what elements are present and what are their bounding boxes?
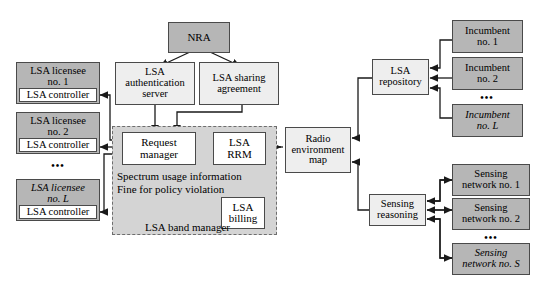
node-lsa-repository-label: LSA repository	[377, 66, 424, 87]
note-fine-policy: Fine for policy violation	[117, 183, 224, 195]
lsa-architecture-diagram: NRA LSA authentication server LSA sharin…	[0, 0, 538, 282]
node-lsa-billing-label: LSA billing	[227, 202, 260, 224]
sensing-network-1-label: Sensing network no. 1	[460, 169, 522, 190]
node-nra: NRA	[168, 22, 230, 53]
node-lsa-rrm: LSA RRM	[213, 132, 266, 165]
node-lsa-repository: LSA repository	[372, 59, 429, 95]
node-sensing-reasoning: Sensing reasoning	[369, 194, 426, 226]
note-spectrum-usage: Spectrum usage information	[117, 170, 242, 182]
licensee-2-title: LSA licensee no. 2	[17, 116, 99, 137]
node-lsa-sharing-agreement: LSA sharing agreement	[199, 62, 279, 105]
node-radio-environment-map: Radio environment map	[285, 127, 351, 173]
licensee-1-controller-label: LSA controller	[25, 90, 92, 101]
incumbent-L: Incumbent no. L	[452, 104, 523, 137]
incumbent-L-label: Incumbent no. L	[463, 110, 511, 131]
licensee-2-controller-label: LSA controller	[25, 140, 92, 151]
incumbent-1-label: Incumbent no. 1	[463, 26, 512, 47]
licensee-L-title: LSA licensee no. L	[17, 183, 99, 204]
node-radio-environment-map-label: Radio environment map	[289, 134, 346, 166]
sensing-network-2: Sensing network no. 2	[452, 198, 530, 230]
sensing-network-S: Sensing network no. S	[452, 243, 530, 275]
node-request-manager-label: Request manager	[138, 137, 180, 159]
sensing-network-1: Sensing network no. 1	[452, 164, 530, 196]
node-lsa-authentication-server: LSA authentication server	[115, 62, 195, 105]
node-nra-label: NRA	[185, 32, 212, 43]
incumbent-ellipsis: •••	[467, 92, 507, 103]
licensee-L-controller: LSA controller	[19, 205, 97, 219]
sensing-network-S-label: Sensing network no. S	[460, 248, 521, 269]
licensee-L-controller-label: LSA controller	[25, 207, 92, 218]
licensee-ellipsis: •••	[38, 160, 78, 171]
incumbent-2: Incumbent no. 2	[452, 57, 523, 90]
node-lsa-authentication-server-label: LSA authentication server	[123, 67, 186, 99]
node-sensing-reasoning-label: Sensing reasoning	[375, 199, 420, 220]
incumbent-2-label: Incumbent no. 2	[463, 63, 512, 84]
licensee-1-controller: LSA controller	[19, 88, 97, 102]
node-lsa-sharing-agreement-label: LSA sharing agreement	[211, 73, 268, 94]
licensee-2-controller: LSA controller	[19, 138, 97, 152]
node-lsa-rrm-label: LSA RRM	[225, 137, 253, 159]
incumbent-1: Incumbent no. 1	[452, 20, 523, 53]
band-region-label: LSA band manager	[145, 221, 230, 233]
sensing-network-2-label: Sensing network no. 2	[460, 203, 522, 224]
licensee-1-title: LSA licensee no. 1	[17, 66, 99, 87]
sensing-network-ellipsis: •••	[471, 232, 511, 243]
node-request-manager: Request manager	[122, 132, 196, 165]
